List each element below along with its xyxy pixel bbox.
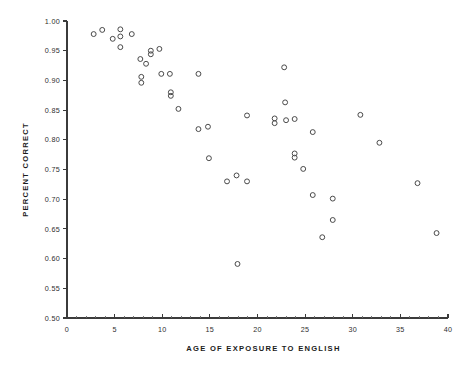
y-tick-label: 0.55 [45,284,60,293]
y-tick-label: 0.95 [45,46,60,55]
data-point-marker [245,113,250,118]
x-tick-label: 40 [444,325,453,334]
data-point-marker [234,173,239,178]
y-axis-title: PERCENT CORRECT [21,122,30,217]
data-point-marker [110,36,115,41]
data-point-marker [168,93,173,98]
data-point-marker [159,71,164,76]
data-point-marker [176,106,181,111]
data-point-marker [138,57,143,62]
data-point-marker [139,74,144,79]
data-point-marker [330,196,335,201]
data-point-marker [235,262,240,267]
data-point-marker [144,61,149,66]
data-point-marker [157,46,162,51]
data-point-marker [245,179,250,184]
y-tick-label: 0.60 [45,254,60,263]
data-point-marker [330,218,335,223]
data-point-marker [310,193,315,198]
x-tick-label: 30 [348,325,357,334]
y-tick-label: 0.65 [45,225,60,234]
data-point-marker [196,127,201,132]
y-tick-label: 0.85 [45,106,60,115]
data-point-marker [225,179,230,184]
data-point-marker [91,32,96,37]
y-tick-label: 0.80 [45,135,60,144]
data-point-marker [310,130,315,135]
plot-canvas: 0.500.550.600.650.700.750.800.850.900.95… [0,0,469,367]
x-tick-label: 35 [396,325,405,334]
data-point-marker [100,27,105,32]
data-point-marker [292,117,297,122]
y-axis-ticks: 0.500.550.600.650.700.750.800.850.900.95… [45,17,67,323]
x-tick-label: 10 [158,325,167,334]
data-point-marker [415,181,420,186]
data-points-group [91,27,439,267]
data-point-marker [284,118,289,123]
x-tick-label: 25 [301,325,310,334]
scatter-plot-figure: 0.500.550.600.650.700.750.800.850.900.95… [0,0,469,367]
y-tick-label: 0.70 [45,195,60,204]
data-point-marker [196,71,201,76]
data-point-marker [206,156,211,161]
data-point-marker [139,80,144,85]
x-tick-label: 20 [253,325,262,334]
x-tick-label: 0 [65,325,69,334]
data-point-marker [377,140,382,145]
data-point-marker [206,124,211,129]
axes-group [67,21,448,318]
data-point-marker [283,100,288,105]
data-point-marker [434,231,439,236]
y-tick-label: 1.00 [45,17,60,26]
data-point-marker [118,34,123,39]
x-tick-label: 15 [206,325,215,334]
data-point-marker [167,71,172,76]
y-tick-label: 0.50 [45,314,60,323]
x-axis-ticks: 0510152025303540 [65,314,452,334]
data-point-marker [282,65,287,70]
data-point-marker [358,112,363,117]
y-tick-label: 0.75 [45,165,60,174]
x-tick-label: 5 [112,325,116,334]
data-point-marker [129,32,134,37]
data-point-marker [320,235,325,240]
data-point-marker [272,121,277,126]
data-point-marker [272,116,277,121]
data-point-marker [301,166,306,171]
data-point-marker [118,45,123,50]
x-axis-title: AGE OF EXPOSURE TO ENGLISH [186,344,340,353]
data-point-marker [118,27,123,32]
data-point-marker [148,52,153,57]
y-tick-label: 0.90 [45,76,60,85]
